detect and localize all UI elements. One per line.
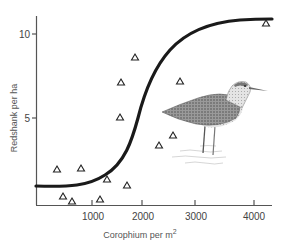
data-point-triangle (132, 54, 139, 60)
y-tick-label-5: 5 (24, 113, 30, 124)
data-point-triangle (124, 182, 131, 188)
x-axis: 1000 2000 3000 4000 Corophium per m2 (36, 200, 272, 240)
chart: 10 5 Redshank per ha 1000 2000 3000 4000… (0, 0, 286, 252)
data-point-triangle (69, 198, 76, 204)
data-point-triangle (263, 20, 270, 26)
x-tick-label-4000: 4000 (243, 211, 266, 222)
x-tick-label-2000: 2000 (132, 211, 155, 222)
y-tick-label-10: 10 (19, 29, 31, 40)
x-axis-title: Corophium per m2 (103, 228, 177, 240)
x-tick-label-3000: 3000 (185, 211, 208, 222)
data-point-triangle (117, 114, 124, 120)
x-axis-title-main: Corophium per m (103, 230, 173, 240)
data-point-triangle (170, 132, 177, 138)
y-axis-title: Redshank per ha (9, 84, 19, 153)
data-point-triangle (78, 165, 85, 171)
data-point-triangle (97, 196, 104, 202)
x-tick-label-1000: 1000 (82, 211, 105, 222)
data-point-triangle (156, 142, 163, 148)
x-axis-title-sup: 2 (173, 228, 177, 235)
redshank-bird-illustration (162, 82, 268, 165)
data-point-triangle (118, 79, 125, 85)
data-point-triangle (177, 78, 184, 84)
data-point-triangle (60, 193, 67, 199)
y-axis: 10 5 Redshank per ha (9, 16, 37, 205)
data-point-triangle (54, 166, 61, 172)
